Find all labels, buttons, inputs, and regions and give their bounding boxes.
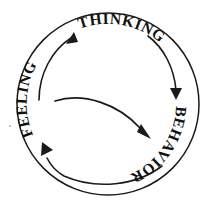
node-label-thinking: THINKING (76, 10, 169, 46)
node-label-feeling: FEELING (12, 58, 39, 141)
edge-feeling-to-thinking (39, 32, 78, 100)
arrow-inner-cross-line (55, 98, 140, 128)
cycle-diagram-canvas: THINKING FEELING BEHAVIOR (0, 0, 216, 207)
arrow-feeling-to-thinking-head (66, 32, 78, 44)
node-label-behavior: BEHAVIOR (128, 106, 190, 188)
outer-circle (17, 13, 199, 195)
scan-artifact-speck (9, 125, 11, 127)
cognitive-cycle-diagram: THINKING FEELING BEHAVIOR (0, 0, 216, 207)
arrow-feeling-to-thinking-line (39, 38, 71, 100)
arrow-behavior-to-feeling-head (41, 142, 53, 156)
arrow-thinking-to-behavior-line (148, 36, 176, 90)
arrow-thinking-to-behavior-head (170, 88, 182, 100)
edge-inner-cross-arrow (55, 98, 151, 139)
